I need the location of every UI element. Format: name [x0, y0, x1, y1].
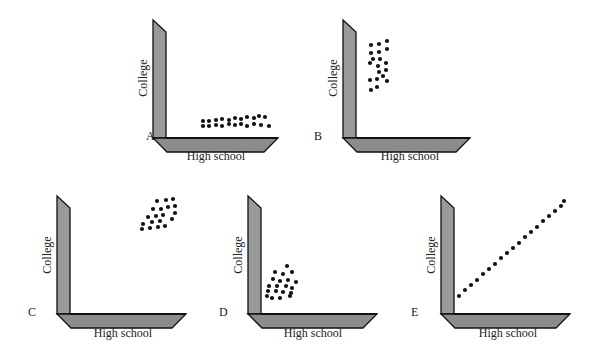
data-point: [201, 119, 205, 123]
data-point: [233, 123, 237, 127]
data-point: [517, 241, 521, 245]
data-point: [290, 286, 294, 290]
data-point: [285, 264, 289, 268]
y-axis-label: College: [40, 236, 54, 273]
data-point: [245, 115, 249, 119]
data-point: [377, 70, 381, 74]
data-point: [151, 207, 155, 211]
data-point: [278, 296, 282, 300]
data-point: [376, 64, 380, 68]
data-point: [286, 278, 290, 282]
data-point: [155, 199, 159, 203]
data-point: [161, 213, 165, 217]
x-axis-label: High school: [94, 326, 153, 340]
data-point: [529, 230, 533, 234]
data-point: [233, 116, 237, 120]
data-point: [274, 289, 278, 293]
data-point: [271, 277, 275, 281]
data-point: [384, 61, 388, 65]
x-axis-label: High school: [381, 149, 440, 163]
data-point: [469, 283, 473, 287]
data-point: [511, 246, 515, 250]
data-point: [385, 79, 389, 83]
data-point: [294, 280, 298, 284]
data-point: [499, 256, 503, 260]
data-point: [156, 225, 160, 229]
data-points: [368, 39, 389, 92]
data-point: [201, 124, 205, 128]
data-point: [275, 284, 279, 288]
data-points: [140, 197, 177, 231]
data-point: [368, 61, 372, 65]
x-axis-label: High school: [479, 326, 538, 340]
data-point: [214, 118, 218, 122]
data-point: [385, 39, 389, 43]
data-point: [252, 116, 256, 120]
y-axis-label: College: [231, 236, 245, 273]
data-point: [140, 227, 144, 231]
data-point: [265, 294, 269, 298]
x-axis-label: High school: [284, 326, 343, 340]
data-point: [207, 124, 211, 128]
data-point: [278, 279, 282, 283]
data-point: [158, 219, 162, 223]
data-point: [541, 219, 545, 223]
data-point: [378, 57, 382, 61]
data-point: [273, 270, 277, 274]
scatter-figure: ACollegeHigh schoolBCollegeHigh schoolCC…: [0, 0, 607, 361]
data-point: [166, 205, 170, 209]
data-points: [201, 114, 271, 128]
data-point: [369, 88, 373, 92]
panel-label: C: [28, 305, 36, 319]
data-point: [377, 50, 381, 54]
y-axis-label: College: [326, 59, 340, 96]
data-point: [171, 197, 175, 201]
y-axis-label: College: [136, 59, 150, 96]
data-point: [562, 199, 566, 203]
data-point: [159, 207, 163, 211]
data-point: [220, 124, 224, 128]
data-point: [375, 77, 379, 81]
data-point: [170, 217, 174, 221]
x-axis-label: High school: [187, 149, 246, 163]
data-point: [146, 215, 150, 219]
data-point: [385, 47, 389, 51]
panel-e: ECollegeHigh school: [411, 196, 570, 340]
data-point: [493, 262, 497, 266]
data-point: [173, 204, 177, 208]
data-point: [239, 117, 243, 121]
data-point: [164, 198, 168, 202]
data-point: [266, 289, 270, 293]
y-axis-bar: [153, 20, 166, 138]
data-point: [487, 267, 491, 271]
data-points: [265, 264, 298, 300]
data-points: [457, 199, 566, 298]
data-point: [154, 214, 158, 218]
data-point: [239, 122, 243, 126]
panel-label: A: [146, 129, 155, 143]
data-point: [148, 226, 152, 230]
data-point: [505, 251, 509, 255]
data-point: [245, 124, 249, 128]
panel-d: DCollegeHigh school: [219, 196, 377, 340]
data-point: [227, 118, 231, 122]
data-point: [267, 124, 271, 128]
data-point: [371, 57, 375, 61]
data-point: [375, 85, 379, 89]
y-axis-bar: [57, 196, 70, 314]
data-point: [141, 222, 145, 226]
data-point: [463, 288, 467, 292]
data-point: [259, 123, 263, 127]
y-axis-label: College: [424, 236, 438, 273]
data-point: [559, 204, 563, 208]
data-point: [290, 270, 294, 274]
panel-c: CCollegeHigh school: [28, 196, 186, 340]
data-point: [267, 284, 271, 288]
data-point: [369, 51, 373, 55]
panel-label: B: [314, 129, 322, 143]
data-point: [270, 296, 274, 300]
data-point: [523, 235, 527, 239]
data-point: [281, 290, 285, 294]
y-axis-bar: [343, 20, 356, 138]
panel-b: BCollegeHigh school: [314, 20, 470, 163]
